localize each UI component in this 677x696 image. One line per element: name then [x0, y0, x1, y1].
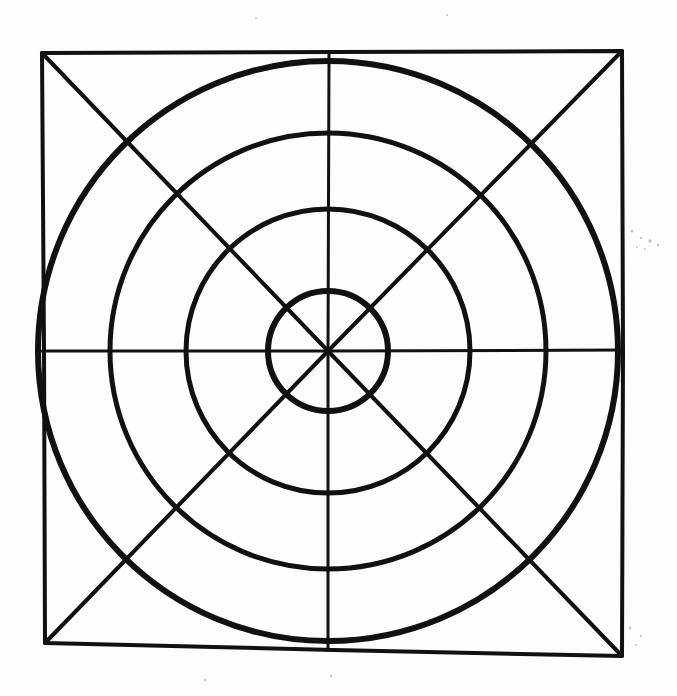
scan-speck: [657, 244, 660, 247]
scan-speck: [204, 679, 206, 681]
paper-background: [0, 0, 677, 696]
scan-speck: [630, 229, 633, 232]
scan-sheet: [0, 0, 677, 696]
scan-speck: [629, 627, 632, 630]
scan-speck: [648, 239, 652, 243]
scan-speck: [635, 644, 637, 646]
scan-speck: [330, 675, 333, 678]
scan-speck: [640, 635, 642, 637]
horizontal-median: [42, 350, 622, 351]
scan-speck: [255, 17, 257, 19]
geometric-drawing: [0, 0, 677, 696]
scan-speck: [640, 237, 642, 239]
scan-speck: [446, 14, 448, 16]
scan-speck: [636, 246, 638, 248]
scan-speck: [644, 248, 646, 250]
